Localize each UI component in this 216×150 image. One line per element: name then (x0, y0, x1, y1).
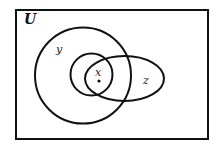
universe-label: U (24, 11, 37, 27)
set-z-label: z (142, 74, 149, 87)
set-y-label: y (55, 43, 63, 56)
element-point (97, 79, 100, 82)
venn-diagram: U y x z (0, 0, 216, 150)
set-x-label: x (95, 66, 102, 79)
